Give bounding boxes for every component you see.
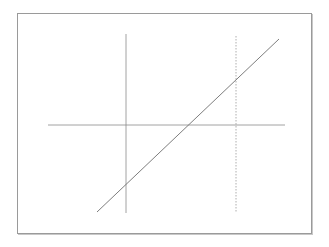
tangent-line bbox=[97, 39, 279, 212]
elliptic-curve-plot bbox=[0, 0, 329, 247]
